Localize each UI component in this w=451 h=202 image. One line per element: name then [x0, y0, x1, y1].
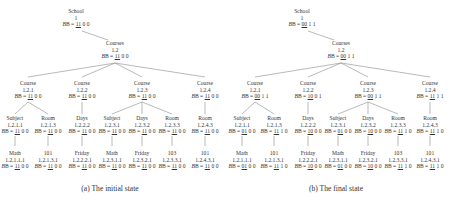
node-label: Days	[354, 115, 381, 122]
node-leaf-friday: Friday 1.2.3.2.1 BB = 11 0 0	[129, 150, 156, 170]
node-days: Days 1.2.3.2 BB = 11 0 0	[129, 115, 156, 135]
node-b-value: BB = 11 0 0	[192, 93, 219, 100]
node-b-value: BB = 00 1 1	[354, 93, 381, 100]
node-id: 1	[288, 15, 315, 22]
node-b-value: BB = 11 0 0	[69, 128, 96, 135]
node-label: 101	[192, 150, 219, 157]
node-b-value: BB = 10 0 0	[294, 128, 321, 135]
node-b-value: BB = 11 0 0	[99, 163, 126, 170]
node-room: Room 1.2.4.3 BB = 11 1 0	[417, 115, 444, 135]
node-label: Subject	[324, 115, 351, 122]
node-id: 1.2.1.3	[261, 122, 288, 129]
node-school: School 1 BB = 11 0 0	[63, 8, 90, 28]
node-b-value: BB = 11 1 0	[261, 128, 288, 135]
node-leaf-math: Math 1.2.1.1.1 BB = 11 0 0	[2, 150, 29, 170]
node-b-value: BB = 11 1 0	[385, 163, 412, 170]
node-label: Room	[385, 115, 412, 122]
node-id: 1.2.2.2	[294, 122, 321, 129]
node-school: School 1 BB = 00 1 1	[288, 8, 315, 28]
node-b-value: BB = 11 1 0	[261, 163, 288, 170]
node-b-value: BB = 01 0 0	[324, 128, 351, 135]
node-b-value: BB = 11 0 0	[35, 163, 62, 170]
node-course: Course 1.2.2 BB = 11 0 0	[69, 80, 96, 100]
node-id: 1.2.1.1	[2, 122, 29, 129]
node-leaf-friday: Friday 1.2.2.2.1 BB = 10 0 0	[294, 150, 321, 170]
node-leaf-friday: Friday 1.2.3.2.1 BB = 10 0 0	[354, 150, 381, 170]
node-label: Room	[417, 115, 444, 122]
node-b-value: BB = 11 0 0	[192, 128, 219, 135]
node-label: 101	[35, 150, 62, 157]
node-b-value: BB = 11 1 0	[417, 163, 444, 170]
node-id: 1.2.2.2	[69, 122, 96, 129]
node-label: Subject	[99, 115, 126, 122]
node-label: Math	[2, 150, 29, 157]
node-label: 103	[159, 150, 186, 157]
node-b-value: BB = 10 0 0	[354, 163, 381, 170]
node-label: Friday	[129, 150, 156, 157]
node-leaf-101: 101 1.2.1.3.1 BB = 11 1 0	[261, 150, 288, 170]
node-id: 1.2.3	[129, 87, 156, 94]
node-id: 1.2.3	[354, 87, 381, 94]
node-label: School	[63, 8, 90, 15]
node-label: 101	[261, 150, 288, 157]
node-leaf-math: Math 1.2.3.1.1 BB = 01 0 0	[324, 150, 351, 170]
node-label: Course	[417, 80, 444, 87]
node-leaf-103: 103 1.2.3.3.1 BB = 11 0 0	[159, 150, 186, 170]
node-b-value: BB = 11 0 0	[129, 93, 156, 100]
node-course: Course 1.2.1 BB = 11 0 0	[15, 80, 42, 100]
node-id: 1.2.3.1.1	[99, 157, 126, 164]
node-b-value: BB = 11 0 0	[2, 128, 29, 135]
node-id: 1.2.2.2.1	[69, 157, 96, 164]
node-id: 1.2	[102, 47, 129, 54]
node-room: Room 1.2.1.3 BB = 11 1 0	[261, 115, 288, 135]
node-leaf-friday: Friday 1.2.2.2.1 BB = 11 0 0	[69, 150, 96, 170]
node-course: Course 1.2.4 BB = 11 0 0	[192, 80, 219, 100]
node-label: School	[288, 8, 315, 15]
node-label: Days	[129, 115, 156, 122]
node-b-value: BB = 11 0 0	[129, 128, 156, 135]
node-b-value: BB = 11 0 0	[35, 128, 62, 135]
node-id: 1.2.3.1	[324, 122, 351, 129]
node-label: Subject	[2, 115, 29, 122]
node-leaf-103: 103 1.2.3.3.1 BB = 11 1 0	[385, 150, 412, 170]
node-id: 1.2.3.2.1	[354, 157, 381, 164]
node-b-value: BB = 11 0 0	[192, 163, 219, 170]
node-days: Days 1.2.3.2 BB = 10 0 0	[354, 115, 381, 135]
node-leaf-101: 101 1.2.4.3.1 BB = 11 1 0	[417, 150, 444, 170]
node-label: Subject	[228, 115, 255, 122]
node-b-value: BB = 10 0 0	[354, 128, 381, 135]
node-label: 103	[385, 150, 412, 157]
node-b-value: BB = 00 1 1	[241, 93, 268, 100]
node-id: 1.2.4	[417, 87, 444, 94]
node-b-value: BB = 11 0 0	[2, 163, 29, 170]
node-label: Room	[192, 115, 219, 122]
node-b-value: BB = 01 0 0	[324, 163, 351, 170]
node-b-value: BB = 00 1 1	[327, 53, 354, 60]
node-b-value: BB = 11 0 0	[69, 93, 96, 100]
caption-initial-state: (a) The initial state	[81, 184, 138, 193]
node-label: Math	[228, 150, 255, 157]
node-id: 1.2.4.3.1	[192, 157, 219, 164]
node-b-value: BB = 11 1 0	[385, 128, 412, 135]
node-id: 1.2.3.2.1	[129, 157, 156, 164]
node-b-value: BB = 11 0 0	[69, 163, 96, 170]
node-label: Days	[294, 115, 321, 122]
node-label: Friday	[294, 150, 321, 157]
node-course: Course 1.2.4 BB = 11 1 1	[417, 80, 444, 100]
node-label: Room	[261, 115, 288, 122]
node-b-value: BB = 11 0 0	[15, 93, 42, 100]
node-label: Room	[35, 115, 62, 122]
node-b-value: BB = 11 0 0	[63, 21, 90, 28]
node-courses: Courses 1.2 BB = 00 1 1	[327, 40, 354, 60]
node-id: 1.2.3.3.1	[159, 157, 186, 164]
node-course: Course 1.2.3 BB = 11 0 0	[129, 80, 156, 100]
node-id: 1.2.3.1	[99, 122, 126, 129]
node-id: 1.2.4.3	[192, 122, 219, 129]
node-id: 1.2.3.2	[129, 122, 156, 129]
node-label: Course	[354, 80, 381, 87]
node-id: 1.2.1	[15, 87, 42, 94]
node-label: 101	[417, 150, 444, 157]
node-label: Course	[294, 80, 321, 87]
node-id: 1.2.1.1.1	[228, 157, 255, 164]
node-label: Course	[241, 80, 268, 87]
